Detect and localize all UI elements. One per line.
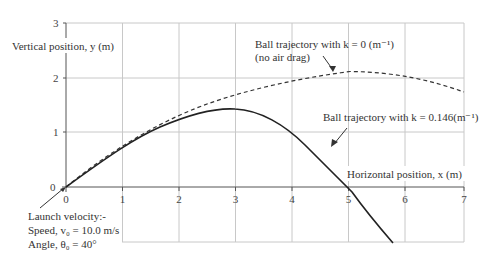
- annotation-launch: Launch velocity:- Speed, v₀ = 10.0 m/s A…: [28, 187, 119, 250]
- y-tick-0: 0: [50, 181, 56, 193]
- no-drag-label-line2: (no air drag): [255, 51, 310, 64]
- y-tick-2: 2: [53, 72, 59, 84]
- x-tick-7: 7: [461, 193, 467, 205]
- launch-label-line3: Angle, θ₀ = 40°: [28, 238, 97, 250]
- x-axis-label: Horizontal position, x (m): [347, 168, 462, 181]
- x-tick-labels: 0 1 2 3 4 5 6 7: [63, 193, 467, 205]
- drag-label: Ball trajectory with k = 0.146(m⁻¹): [323, 111, 479, 124]
- y-tick-3: 3: [53, 17, 59, 29]
- no-drag-label-line1: Ball trajectory with k = 0 (m⁻¹): [255, 38, 394, 51]
- x-tick-3: 3: [233, 193, 239, 205]
- drag-trajectory: [66, 109, 393, 243]
- launch-label-line2: Speed, v₀ = 10.0 m/s: [28, 224, 119, 236]
- x-tick-0: 0: [63, 193, 69, 205]
- annotation-no-drag: Ball trajectory with k = 0 (m⁻¹) (no air…: [255, 38, 394, 72]
- trajectory-chart: 3 2 1 0 0 1 2 3 4 5 6 7 Vertical positio…: [0, 0, 498, 259]
- x-tick-6: 6: [402, 193, 408, 205]
- x-tick-4: 4: [289, 193, 295, 205]
- x-tick-2: 2: [176, 193, 182, 205]
- launch-label-line1: Launch velocity:-: [28, 210, 106, 222]
- annotation-drag: Ball trajectory with k = 0.146(m⁻¹): [323, 111, 479, 147]
- y-tick-1: 1: [53, 126, 59, 138]
- x-tick-1: 1: [120, 193, 126, 205]
- y-axis-label: Vertical position, y (m): [12, 40, 114, 53]
- x-tick-5: 5: [346, 193, 352, 205]
